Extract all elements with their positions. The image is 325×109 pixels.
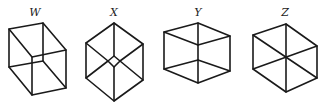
- figure-x: [86, 23, 143, 101]
- figure-y: [164, 23, 230, 83]
- figure-panel: W X Y Z: [0, 0, 325, 109]
- figures-drawing: [0, 0, 325, 109]
- figure-z: [253, 24, 317, 92]
- figure-w: [9, 23, 66, 95]
